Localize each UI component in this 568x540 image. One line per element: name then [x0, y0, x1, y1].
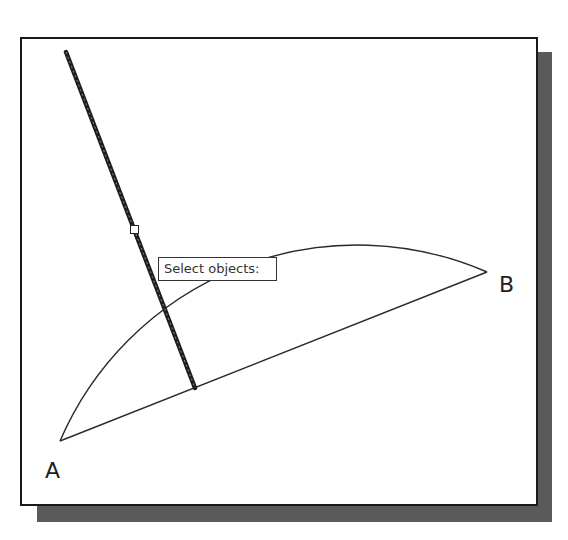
tooltip-text: Select objects: — [164, 261, 259, 276]
point-label-a: A — [45, 458, 60, 483]
command-prompt-tooltip: Select objects: — [158, 257, 277, 281]
point-label-b: B — [499, 272, 514, 297]
line-ab[interactable] — [60, 272, 487, 441]
drawing-canvas[interactable] — [0, 0, 568, 540]
pickbox-cursor-icon — [130, 225, 139, 234]
